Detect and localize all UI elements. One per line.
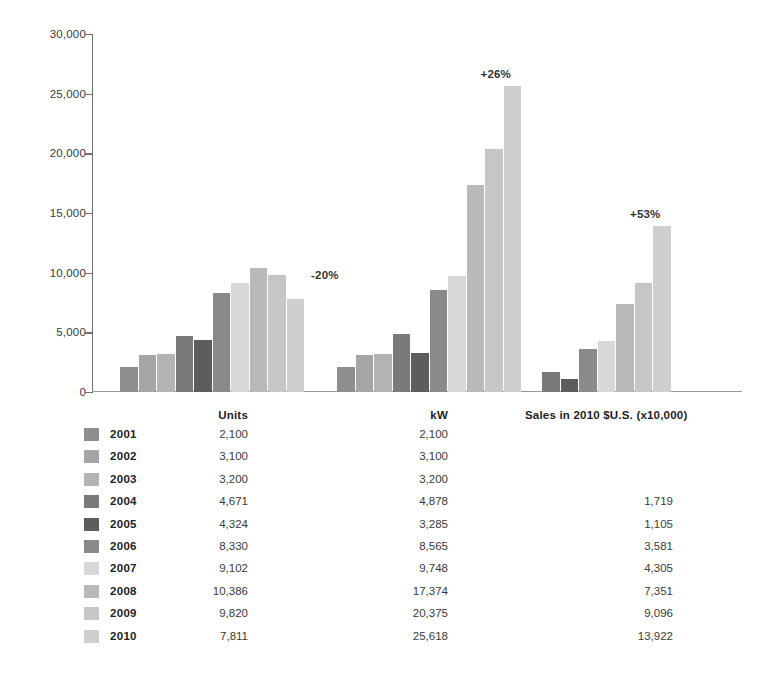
cell-kw: 25,618 — [360, 626, 448, 647]
column-header-sales: Sales in 2010 $U.S. (x10,000) — [525, 405, 760, 425]
legend-swatch-icon — [84, 585, 99, 598]
legend-year-label: 2010 — [110, 626, 164, 647]
cell-units: 9,102 — [160, 558, 248, 579]
cell-units: 3,200 — [160, 469, 248, 490]
cell-kw: 3,285 — [360, 514, 448, 535]
cell-kw: 8,565 — [360, 536, 448, 557]
cell-units: 9,820 — [160, 603, 248, 624]
column-header-kw: kW — [360, 405, 448, 425]
table-row: 20068,3308,5653,581 — [0, 536, 760, 558]
legend-year-label: 2006 — [110, 536, 164, 557]
bar — [579, 349, 597, 392]
cell-sales: 4,305 — [585, 558, 673, 579]
bar — [194, 340, 212, 392]
cell-sales: 1,105 — [585, 514, 673, 535]
legend-swatch-icon — [84, 630, 99, 643]
bar — [504, 86, 522, 392]
bar — [157, 354, 175, 392]
legend-year-label: 2007 — [110, 558, 164, 579]
group-annotation: +53% — [630, 208, 661, 220]
cell-kw: 4,878 — [360, 491, 448, 512]
legend-swatch-icon — [84, 428, 99, 441]
bar — [598, 341, 616, 392]
group-annotation: -20% — [311, 269, 339, 281]
bar — [561, 379, 579, 392]
y-tick-label: 5,000 — [56, 326, 86, 338]
legend-data-table: Units kW Sales in 2010 $U.S. (x10,000) 2… — [0, 405, 760, 686]
y-tick-label: 15,000 — [50, 207, 86, 219]
bar — [393, 334, 411, 392]
table-row: 20107,81125,61813,922 — [0, 626, 760, 648]
bar — [139, 355, 157, 392]
cell-units: 8,330 — [160, 536, 248, 557]
legend-year-label: 2008 — [110, 581, 164, 602]
bar — [430, 290, 448, 392]
y-tick-label: 25,000 — [50, 88, 86, 100]
bar — [635, 283, 653, 392]
cell-kw: 2,100 — [360, 424, 448, 445]
bar — [250, 268, 268, 392]
legend-swatch-icon — [84, 540, 99, 553]
legend-year-label: 2003 — [110, 469, 164, 490]
cell-sales: 9,096 — [585, 603, 673, 624]
bar — [485, 149, 503, 392]
cell-sales: 7,351 — [585, 581, 673, 602]
y-tick-label: 20,000 — [50, 147, 86, 159]
legend-swatch-icon — [84, 495, 99, 508]
bar — [467, 185, 485, 392]
cell-units: 10,386 — [160, 581, 248, 602]
legend-swatch-icon — [84, 518, 99, 531]
cell-kw: 17,374 — [360, 581, 448, 602]
group-annotation: +26% — [481, 68, 512, 80]
table-row: 20079,1029,7484,305 — [0, 558, 760, 580]
bar — [653, 226, 671, 392]
legend-year-label: 2005 — [110, 514, 164, 535]
bar — [542, 372, 560, 393]
cell-kw: 3,200 — [360, 469, 448, 490]
cell-units: 7,811 — [160, 626, 248, 647]
table-row: 20033,2003,200 — [0, 469, 760, 491]
y-tick-label: 30,000 — [50, 28, 86, 40]
legend-swatch-icon — [84, 607, 99, 620]
y-axis-tick-labels: 05,00010,00015,00020,00025,00030,000 — [8, 0, 86, 410]
bar — [287, 299, 305, 392]
cell-units: 4,671 — [160, 491, 248, 512]
bar — [213, 293, 231, 392]
bar — [411, 353, 429, 392]
bar — [616, 304, 634, 392]
cell-sales: 3,581 — [585, 536, 673, 557]
y-tick-label: 10,000 — [50, 267, 86, 279]
cell-units: 4,324 — [160, 514, 248, 535]
table-row: 200810,38617,3747,351 — [0, 581, 760, 603]
bar — [120, 367, 138, 392]
bar — [268, 275, 286, 392]
column-header-units: Units — [160, 405, 248, 425]
bar — [231, 283, 249, 392]
table-row: 20099,82020,3759,096 — [0, 603, 760, 625]
legend-swatch-icon — [84, 450, 99, 463]
bar — [448, 276, 466, 392]
legend-year-label: 2001 — [110, 424, 164, 445]
table-row: 20054,3243,2851,105 — [0, 514, 760, 536]
cell-units: 3,100 — [160, 446, 248, 467]
cell-kw: 9,748 — [360, 558, 448, 579]
bar — [337, 367, 355, 392]
legend-swatch-icon — [84, 473, 99, 486]
table-row: 20012,1002,100 — [0, 424, 760, 446]
plot-area: 05,00010,00015,00020,00025,00030,000 -20… — [0, 0, 760, 410]
legend-swatch-icon — [84, 562, 99, 575]
cell-units: 2,100 — [160, 424, 248, 445]
legend-year-label: 2009 — [110, 603, 164, 624]
cell-kw: 20,375 — [360, 603, 448, 624]
table-row: 20023,1003,100 — [0, 446, 760, 468]
cell-sales: 13,922 — [585, 626, 673, 647]
legend-year-label: 2004 — [110, 491, 164, 512]
cell-sales: 1,719 — [585, 491, 673, 512]
bar — [374, 354, 392, 392]
bar — [176, 336, 194, 392]
bar — [356, 355, 374, 392]
legend-year-label: 2002 — [110, 446, 164, 467]
table-row: 20044,6714,8781,719 — [0, 491, 760, 513]
bar-chart-figure: 05,00010,00015,00020,00025,00030,000 -20… — [0, 0, 760, 686]
cell-kw: 3,100 — [360, 446, 448, 467]
